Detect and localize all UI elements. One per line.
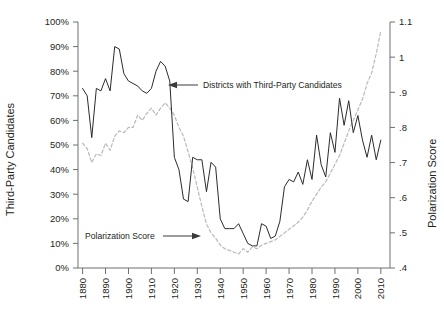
polarization-annotation: Polarization Score [85,231,201,241]
y-axis-left-tick-label: 70% [50,90,70,101]
polarization-annotation-label: Polarization Score [85,231,155,241]
chart-canvas: 0%10%20%30%40%50%60%70%80%90%100% .4.5.6… [0,0,444,324]
x-axis-tick-label: 1890 [100,278,111,299]
x-axis-ticks: 1880189019001910192019301940195019601970… [77,268,386,299]
y-axis-left-tick-label: 90% [50,41,70,52]
x-axis-tick-label: 2010 [375,278,386,299]
x-axis-tick-label: 1990 [330,278,341,299]
y-axis-left-tick-label: 40% [50,164,70,175]
x-axis-tick-label: 2000 [352,278,363,299]
districts-annotation-label: Districts with Third-Party Candidates [203,80,342,90]
y-axis-right-ticks: .4.5.6.7.8.911.1 [390,16,412,273]
x-axis-tick-label: 1880 [77,278,88,299]
chart-container: 0%10%20%30%40%50%60%70%80%90%100% .4.5.6… [0,0,444,324]
districts-annotation-arrowhead [168,82,177,88]
polarization-annotation-arrowhead [192,233,201,239]
x-axis-tick-label: 1930 [192,278,203,299]
y-axis-right-tick-label: .7 [399,157,407,168]
districts-annotation: Districts with Third-Party Candidates [168,80,342,90]
x-axis-tick-label: 1970 [284,278,295,299]
x-axis-tick-label: 1960 [261,278,272,299]
y-axis-right-tick-label: .8 [399,122,407,133]
y-axis-left-tick-label: 20% [50,213,70,224]
y-axis-left-tick-label: 30% [50,189,70,200]
y-axis-right-tick-label: .4 [399,262,407,273]
y-axis-right-tick-label: .6 [399,192,407,203]
y-axis-left-tick-label: 80% [50,66,70,77]
y-axis-right-tick-label: .5 [399,227,407,238]
y-axis-left-title: Third-Party Candidates [4,102,16,216]
y-axis-left-tick-label: 100% [45,16,70,27]
third-party-candidates-line [83,47,381,246]
y-axis-left-tick-label: 50% [50,139,70,150]
y-axis-right-title: Polarization Score [426,139,438,228]
y-axis-right-tick-label: .9 [399,87,407,98]
x-axis-tick-label: 1950 [238,278,249,299]
y-axis-left-tick-label: 60% [50,115,70,126]
x-axis-tick-label: 1920 [169,278,180,299]
x-axis-tick-label: 1940 [215,278,226,299]
y-axis-right-tick-label: 1 [399,52,404,63]
x-axis-tick-label: 1900 [123,278,134,299]
y-axis-right-tick-label: 1.1 [399,16,412,27]
x-axis-tick-label: 1980 [307,278,318,299]
y-axis-left-tick-label: 0% [55,262,69,273]
y-axis-left-ticks: 0%10%20%30%40%50%60%70%80%90%100% [45,16,78,273]
y-axis-left-tick-label: 10% [50,238,70,249]
x-axis-tick-label: 1910 [146,278,157,299]
